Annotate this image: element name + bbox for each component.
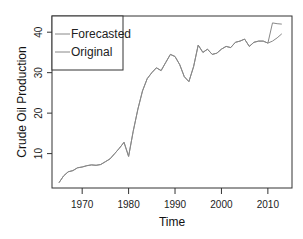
y-tick-label: 20: [33, 107, 44, 119]
legend-label-forecasted: Forecasted: [71, 27, 131, 41]
y-axis-title: Crude Oil Production: [15, 46, 29, 157]
legend-label-original: Original: [71, 45, 112, 59]
x-axis: 19701980199020002010: [71, 188, 279, 210]
line-chart: 10203040 19701980199020002010 Time Crude…: [0, 0, 303, 239]
x-axis-title: Time: [159, 215, 186, 229]
y-axis: 10203040: [33, 26, 52, 159]
y-tick-label: 10: [33, 148, 44, 160]
y-tick-label: 30: [33, 67, 44, 79]
x-tick-label: 2000: [210, 199, 233, 210]
legend: Forecasted Original: [52, 16, 131, 70]
legend-box: [52, 16, 123, 70]
x-tick-label: 1980: [117, 199, 140, 210]
y-tick-label: 40: [33, 26, 44, 38]
x-tick-label: 1990: [164, 199, 187, 210]
x-tick-label: 1970: [71, 199, 94, 210]
x-tick-label: 2010: [257, 199, 280, 210]
